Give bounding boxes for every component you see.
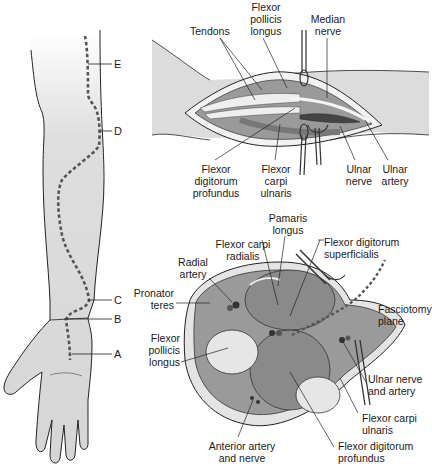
label-median-nerve: Mediannerve [306,13,350,37]
incision-marker-b: B [114,313,121,325]
label-flexor-pollicis-longus-top: Flexorpollicislongus [246,1,286,37]
label-flexor-carpi-ulnaris-bottom: Flexor carpiulnaris [362,412,417,436]
incision-marker-c: C [114,294,122,306]
label-flexor-digitorum-profundus-bottom: Flexor digitorumprofundus [338,440,413,464]
label-fasciotomy-plane: Fasciotomyplane [378,303,432,327]
label-ulnar-nerve-and-artery: Ulnar nerveand artery [368,373,422,397]
incision-marker-a: A [114,348,121,360]
label-flexor-carpi-ulnaris-top: Flexorcarpiulnaris [256,163,296,199]
label-flexor-digitorum-profundus-top: Flexordigitorumprofundus [186,163,246,199]
label-anterior-artery-and-nerve: Anterior arteryand nerve [200,440,284,464]
label-ulnar-artery-top: Ulnarartery [377,163,413,187]
label-flexor-pollicis-longus-bottom: Flexorpollicislongus [136,332,180,368]
label-palmaris-longus: Pamarislongus [265,212,311,236]
label-flexor-digitorum-superficialis: Flexor digitorumsuperficialis [324,236,399,260]
label-pronator-teres: Pronatorteres [128,287,174,311]
arm-illustration [4,30,112,463]
incision-marker-d: D [114,125,122,137]
incision-marker-e: E [114,58,121,70]
label-flexor-carpi-radialis: Flexor carpiradialis [210,238,276,262]
label-ulnar-nerve-top: Ulnarnerve [343,163,375,187]
surgical-exposure-illustration [152,30,429,175]
label-tendons: Tendons [190,25,230,37]
label-radial-artery: Radialartery [176,256,210,280]
